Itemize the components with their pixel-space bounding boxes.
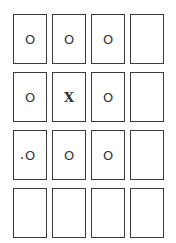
o-mark: O — [25, 149, 35, 162]
dot-marker — [21, 157, 23, 159]
o-mark: O — [103, 33, 113, 46]
cell-r1-c2[interactable]: O — [52, 14, 86, 64]
cell-r2-c3[interactable]: O — [91, 72, 125, 122]
o-mark: O — [64, 149, 74, 162]
cell-r2-c4[interactable] — [130, 72, 164, 122]
x-mark: X — [64, 91, 74, 104]
cell-r4-c4[interactable] — [130, 188, 164, 238]
cell-r4-c1[interactable] — [13, 188, 47, 238]
cell-r3-c3[interactable]: O — [91, 130, 125, 180]
o-mark: O — [103, 91, 113, 104]
cell-r3-c1[interactable]: O — [13, 130, 47, 180]
cell-r4-c3[interactable] — [91, 188, 125, 238]
o-mark: O — [64, 33, 74, 46]
game-board: O O O O X O O O O — [13, 14, 164, 238]
cell-r4-c2[interactable] — [52, 188, 86, 238]
o-mark: O — [25, 91, 35, 104]
o-mark: O — [103, 149, 113, 162]
o-mark: O — [25, 33, 35, 46]
cell-r1-c4[interactable] — [130, 14, 164, 64]
cell-r3-c2[interactable]: O — [52, 130, 86, 180]
cell-r2-c1[interactable]: O — [13, 72, 47, 122]
cell-r3-c4[interactable] — [130, 130, 164, 180]
cell-r1-c3[interactable]: O — [91, 14, 125, 64]
cell-r1-c1[interactable]: O — [13, 14, 47, 64]
cell-r2-c2[interactable]: X — [52, 72, 86, 122]
